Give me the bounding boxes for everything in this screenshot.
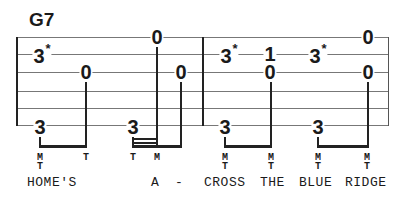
fret-number: 3 [309,45,320,67]
lyric-word: BLUE [299,175,332,190]
asterisk-mark: * [322,41,327,56]
fret-number: 3 [220,45,231,67]
fret-number: 0 [151,26,162,48]
fret-number: 3 [127,116,138,138]
beam [132,145,182,148]
lyric-word: - [175,175,183,190]
tab-note: 0 [150,27,163,47]
stem [270,82,272,147]
tab-note: 3 [311,117,324,137]
fret-number: 0 [175,61,186,83]
tab-note: 3* [219,42,238,67]
beam [132,142,158,144]
fret-number: 0 [362,61,373,83]
finger-label: MT [222,153,228,171]
lyric-word: HOME'S [27,175,77,190]
lyric-word: THE [260,175,285,190]
fret-number: 0 [80,61,91,83]
finger-label: T [83,153,89,162]
tab-note: 0 [263,62,276,82]
tab-note: 3* [308,42,327,67]
measure-barline [202,37,204,126]
asterisk-mark: * [233,41,238,56]
tab-note: 0 [174,62,187,82]
tab-note: 0 [79,62,92,82]
stem [85,82,87,147]
lyric-word: RIDGE [345,175,387,190]
stem [180,82,182,147]
fret-number: 3 [312,116,323,138]
lyric-word: CROSS [204,175,246,190]
fret-number: 3 [219,116,230,138]
beam [317,145,369,148]
asterisk-mark: * [46,41,51,56]
tab-note: 0 [361,62,374,82]
start-barline [16,37,18,126]
finger-label: MT [268,153,274,171]
fret-number: 3 [33,45,44,67]
fret-number: 0 [264,61,275,83]
tab-note: 0 [361,27,374,47]
tab-note: 3 [33,117,46,137]
chord-label: G7 [29,9,54,31]
finger-label: M [154,153,160,162]
tab-note: 3 [218,117,231,137]
stem [367,82,369,147]
lyric-word: A [151,175,159,190]
tab-note: 3* [32,42,51,67]
fret-number: 0 [362,26,373,48]
stem [156,47,158,147]
finger-label: MT [364,153,370,171]
fret-number: 3 [34,116,45,138]
tab-note: 3 [126,117,139,137]
finger-label: MT [315,153,321,171]
beam [132,138,158,140]
end-barline [388,37,389,126]
beam [39,145,87,148]
finger-label: T [130,153,136,162]
finger-label: MT [37,153,43,171]
beam [224,145,272,148]
